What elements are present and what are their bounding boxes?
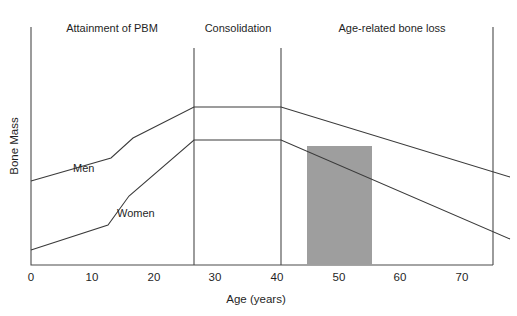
phase-label-age-related-bone-loss: Age-related bone loss (338, 22, 446, 34)
bone-mass-chart: Attainment of PBM Consolidation Age-rela… (0, 0, 517, 316)
x-tick-label-40: 40 (271, 271, 284, 283)
women-bone-mass-curve (31, 140, 510, 250)
phase-label-attainment: Attainment of PBM (66, 22, 158, 34)
x-tick-label-70: 70 (456, 271, 469, 283)
y-axis-title: Bone Mass (8, 117, 20, 175)
x-tick-label-0: 0 (28, 271, 34, 283)
x-tick-label-20: 20 (148, 271, 161, 283)
menopause-shaded-band (307, 146, 372, 265)
phase-label-consolidation: Consolidation (205, 22, 272, 34)
x-tick-label-30: 30 (209, 271, 222, 283)
axis-lines (31, 27, 493, 265)
x-tick-label-50: 50 (333, 271, 346, 283)
series-label-men: Men (73, 162, 94, 174)
x-tick-label-60: 60 (394, 271, 407, 283)
chart-canvas: Attainment of PBM Consolidation Age-rela… (0, 0, 517, 316)
x-axis-title: Age (years) (226, 293, 286, 305)
men-bone-mass-curve (31, 107, 510, 181)
x-tick-label-10: 10 (86, 271, 99, 283)
series-label-women: Women (117, 207, 155, 219)
